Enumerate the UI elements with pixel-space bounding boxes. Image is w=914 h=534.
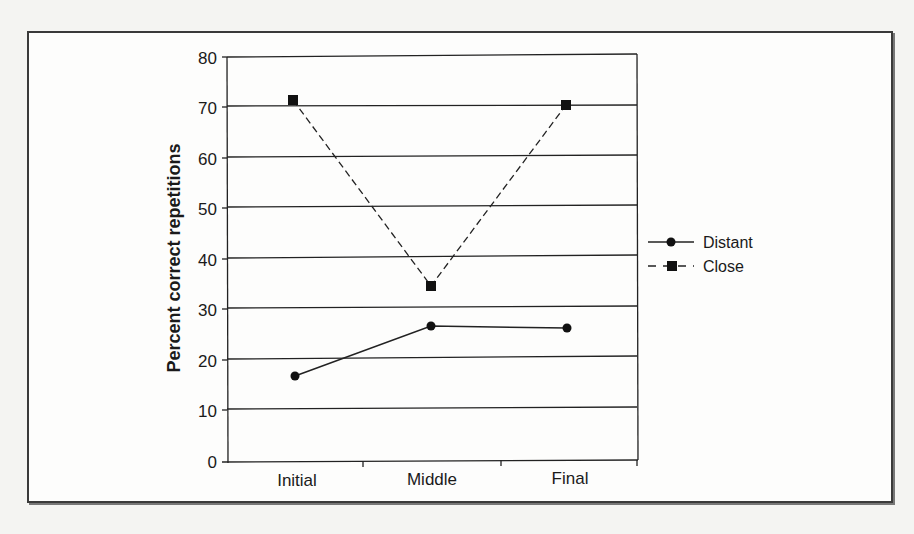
y-tick-label: 10 [198, 402, 217, 421]
legend: Distant Close [648, 234, 753, 275]
data-point-close [288, 95, 298, 105]
gridlines [227, 54, 637, 409]
x-tick-labels: Initial Middle Final [277, 469, 588, 490]
y-tick-label: 70 [198, 99, 217, 118]
x-axis [222, 460, 638, 462]
data-point-distant [427, 322, 436, 331]
legend-label-distant: Distant [703, 234, 753, 251]
legend-label-close: Close [703, 258, 744, 275]
x-tick-label: Initial [277, 471, 317, 490]
data-point-distant [563, 324, 572, 333]
x-tick-label: Middle [407, 470, 457, 489]
axes [222, 54, 638, 467]
data-point-close [426, 281, 436, 291]
right-border [637, 54, 638, 460]
y-axis-label: Percent correct repetitions [164, 143, 184, 372]
data-point-close [561, 100, 571, 110]
legend-square-icon [667, 261, 677, 271]
series-close [288, 95, 571, 291]
y-tick-label: 80 [198, 49, 217, 68]
series-distant [291, 322, 572, 381]
y-tick-label: 50 [198, 200, 217, 219]
y-tick-label: 20 [198, 352, 217, 371]
line-chart: 80 70 60 50 40 30 20 10 0 Percent correc… [0, 0, 914, 534]
y-tick-label: 0 [208, 453, 217, 472]
y-tick-labels: 80 70 60 50 40 30 20 10 0 [198, 49, 217, 472]
legend-circle-icon [667, 238, 676, 247]
x-tick-label: Final [552, 469, 589, 488]
y-tick-label: 30 [198, 301, 217, 320]
y-axis [227, 57, 228, 463]
y-tick-label: 40 [198, 251, 217, 270]
y-tick-label: 60 [198, 150, 217, 169]
data-point-distant [291, 372, 300, 381]
